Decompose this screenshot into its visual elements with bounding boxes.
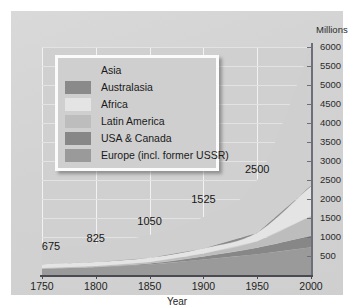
y-axis-tick-label: 2500 bbox=[320, 175, 341, 184]
x-axis-label: Year bbox=[11, 296, 343, 306]
data-annotation: 1525 bbox=[191, 194, 215, 205]
y-axis-tick bbox=[307, 47, 313, 48]
y-axis-tick-label: 6000 bbox=[320, 42, 341, 51]
y-axis-tick bbox=[307, 66, 313, 67]
x-axis-tick bbox=[203, 275, 204, 279]
y-axis-tick bbox=[307, 123, 313, 124]
legend-swatch bbox=[65, 64, 91, 77]
legend-item-label: Africa bbox=[101, 99, 128, 110]
legend-item: USA & Canada bbox=[58, 130, 216, 147]
y-axis-tick bbox=[307, 104, 313, 105]
legend-swatch bbox=[65, 98, 91, 111]
legend-item: Africa bbox=[58, 96, 216, 113]
y-axis-tick-label: 5000 bbox=[320, 80, 341, 89]
x-axis-tick bbox=[311, 275, 312, 279]
y-axis-tick bbox=[307, 199, 313, 200]
data-annotation: 1050 bbox=[137, 216, 161, 227]
legend-swatch bbox=[65, 149, 91, 162]
legend-swatch bbox=[65, 81, 91, 94]
x-axis-line bbox=[40, 275, 313, 277]
y-axis-tick-label: 1000 bbox=[320, 232, 341, 241]
data-annotation: 675 bbox=[42, 241, 60, 252]
legend-item-label: Europe (incl. former USSR) bbox=[101, 150, 229, 161]
y-axis-tick-label: 5500 bbox=[320, 61, 341, 70]
y-axis-tick bbox=[307, 161, 313, 162]
y-axis-tick bbox=[307, 237, 313, 238]
y-axis-tick bbox=[307, 142, 313, 143]
x-axis-tick-label: 1950 bbox=[246, 281, 269, 292]
y-axis-unit-label: Millions bbox=[316, 24, 348, 35]
x-axis-tick-label: 1900 bbox=[192, 281, 215, 292]
y-axis-tick-label: 1500 bbox=[320, 213, 341, 222]
legend-item: Asia bbox=[58, 62, 216, 79]
y-axis-tick bbox=[307, 218, 313, 219]
legend-swatch bbox=[65, 132, 91, 145]
legend-item-label: Latin America bbox=[101, 116, 165, 127]
data-annotation: 825 bbox=[87, 233, 105, 244]
chart-plate: 5001000150020002500300035004000450050005… bbox=[11, 11, 343, 295]
x-axis-tick-label: 1800 bbox=[84, 281, 107, 292]
population-area-chart-figure: 5001000150020002500300035004000450050005… bbox=[0, 0, 354, 306]
legend-swatch bbox=[65, 115, 91, 128]
legend-item-label: USA & Canada bbox=[101, 133, 172, 144]
y-axis-tick bbox=[307, 256, 313, 257]
legend-item-label: Asia bbox=[101, 65, 121, 76]
y-axis-line bbox=[311, 43, 313, 277]
y-axis-tick bbox=[307, 85, 313, 86]
y-axis-tick-label: 4000 bbox=[320, 118, 341, 127]
legend: AsiaAustralasiaAfricaLatin AmericaUSA & … bbox=[55, 55, 219, 171]
y-axis-tick-label: 4500 bbox=[320, 99, 341, 108]
y-axis-tick-label: 500 bbox=[320, 251, 336, 260]
data-annotation: 2500 bbox=[245, 164, 269, 175]
x-axis-tick-label: 1850 bbox=[138, 281, 161, 292]
x-axis-tick bbox=[96, 275, 97, 279]
y-axis-tick bbox=[307, 180, 313, 181]
x-axis-tick-label: 1750 bbox=[30, 281, 53, 292]
legend-item: Australasia bbox=[58, 79, 216, 96]
y-axis-tick-label: 3500 bbox=[320, 137, 341, 146]
legend-item: Europe (incl. former USSR) bbox=[58, 147, 216, 164]
x-axis-tick bbox=[257, 275, 258, 279]
x-axis-tick-label: 2000 bbox=[299, 281, 322, 292]
legend-item: Latin America bbox=[58, 113, 216, 130]
y-axis-tick-label: 2000 bbox=[320, 194, 341, 203]
x-axis-tick bbox=[42, 275, 43, 279]
legend-item-label: Australasia bbox=[101, 82, 153, 93]
x-axis-tick bbox=[150, 275, 151, 279]
y-axis-tick-label: 3000 bbox=[320, 156, 341, 165]
